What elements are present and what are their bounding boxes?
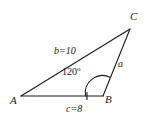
side-label-c: c=8 [66, 104, 82, 114]
vertex-label-C: C [130, 11, 137, 22]
side-a-segment-BC [103, 29, 130, 96]
side-label-a: a [118, 59, 123, 69]
geometry-figure: A B C b=10 c=8 a 120o [0, 0, 153, 122]
angle-value-text: 120 [62, 66, 77, 77]
side-b-segment-AC [21, 29, 130, 96]
vertex-label-A: A [10, 95, 17, 106]
degree-symbol-icon: o [77, 65, 81, 73]
side-label-b: b=10 [54, 46, 76, 56]
vertex-label-B: B [105, 94, 112, 105]
angle-label-at-B: 120o [62, 66, 81, 77]
